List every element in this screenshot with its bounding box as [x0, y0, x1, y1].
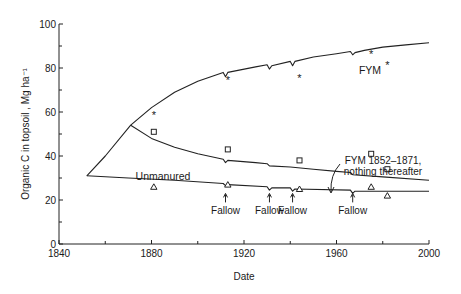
- fallow-label: Fallow: [278, 205, 308, 216]
- series-label-unmanured: Unmanured: [136, 170, 191, 182]
- x-tick-label: 2000: [418, 248, 441, 259]
- triangle-marker: [151, 184, 157, 190]
- leader-arrow-icon: [331, 164, 340, 192]
- series-label-fym: FYM: [359, 64, 381, 76]
- fallow-label: Fallow: [338, 205, 368, 216]
- square-marker: [151, 129, 156, 134]
- y-tick-label: 40: [45, 151, 57, 162]
- triangle-marker: [368, 184, 374, 190]
- triangle-marker: [384, 193, 390, 199]
- x-axis-label: Date: [233, 271, 255, 282]
- asterisk-marker: *: [226, 74, 231, 86]
- series-label-fym-stop-line1: FYM 1852–1871,: [345, 155, 422, 166]
- asterisk-marker: *: [297, 72, 302, 84]
- x-tick-label: 1960: [325, 248, 348, 259]
- y-tick-label: 60: [45, 107, 57, 118]
- asterisk-marker: *: [369, 48, 374, 60]
- x-tick-label: 1920: [233, 248, 256, 259]
- soil-carbon-line-chart: 02040608010018401880192019602000 ***** F…: [0, 0, 461, 294]
- y-axis-label: Organic C in topsoil , Mg ha⁻¹: [20, 67, 31, 199]
- series-label-fym-stop-line2: nothing thereafter: [344, 166, 423, 177]
- x-tick-label: 1880: [140, 248, 163, 259]
- square-marker: [225, 147, 230, 152]
- asterisk-marker: *: [152, 109, 157, 121]
- chart-container: 02040608010018401880192019602000 ***** F…: [0, 0, 461, 294]
- y-tick-label: 80: [45, 63, 57, 74]
- axes: 02040608010018401880192019602000: [39, 19, 440, 260]
- square-marker: [297, 158, 302, 163]
- fallow-label: Fallow: [211, 205, 241, 216]
- y-tick-label: 100: [39, 19, 56, 30]
- y-tick-label: 20: [45, 195, 57, 206]
- x-tick-label: 1840: [48, 248, 71, 259]
- asterisk-marker: *: [385, 59, 390, 71]
